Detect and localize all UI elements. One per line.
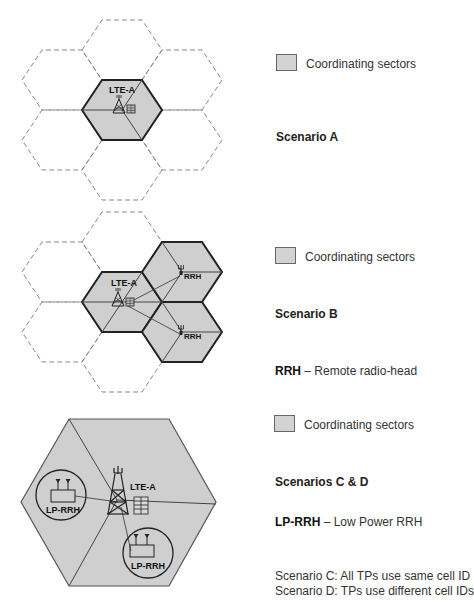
scenario-cd-macro-cell: LP-RRH LP-RRH [21,419,216,586]
scenario-a-coordinating-cell: LTE-A [82,80,162,140]
rrh-definition: RRH – Remote radio-head [275,364,417,378]
legend-swatch-a [276,54,297,71]
legend-label-b: Coordinating sectors [305,250,415,264]
scenario-b-hex-grid: LTE-A RRH RRH [22,212,222,392]
scenario-cd-station-label: LTE-A [130,482,156,492]
scenario-d-note: Scenario D: TPs use different cell IDs [275,584,474,599]
scenario-a-station-label: LTE-A [109,85,135,95]
scenario-c-note: Scenario C: All TPs use same cell ID [275,569,470,584]
lp-rrh-label-right: LP-RRH [131,561,165,571]
scenario-a-title: Scenario A [276,130,338,144]
rrh-term: RRH [275,364,301,378]
scenario-a-hex-grid: LTE-A [22,20,222,200]
scenario-b-coordinating-cells: LTE-A RRH RRH [82,242,222,362]
legend-label-a: Coordinating sectors [306,57,416,71]
legend-swatch-b [275,247,296,264]
equipment-rack-icon [134,497,148,514]
lp-rrh-label-left: LP-RRH [46,505,80,515]
legend-swatch-cd [274,415,295,432]
rrh-term-definition: – Remote radio-head [301,364,417,378]
lp-rrh-term: LP-RRH [275,515,320,529]
rrh-label-bottom: RRH [184,332,202,341]
lp-rrh-definition: LP-RRH – Low Power RRH [275,515,422,529]
scenario-b-station-label: LTE-A [111,278,137,288]
rrh-label-top: RRH [184,272,202,281]
scenario-b-title: Scenario B [275,307,338,321]
scenario-cd-title: Scenarios C & D [275,475,368,489]
legend-label-cd: Coordinating sectors [304,418,414,432]
lp-rrh-term-definition: – Low Power RRH [320,515,422,529]
